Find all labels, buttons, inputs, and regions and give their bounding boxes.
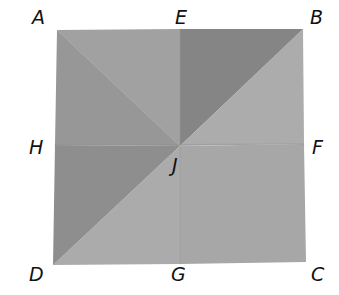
label-a: A (30, 6, 45, 28)
folded-square-diagram: A E B H F J D G C (0, 0, 339, 295)
label-f: F (312, 136, 324, 158)
label-d: D (29, 263, 44, 285)
label-g: G (171, 263, 186, 285)
label-h: H (29, 136, 43, 158)
label-e: E (175, 6, 187, 28)
label-b: B (310, 6, 323, 28)
label-c: C (311, 263, 325, 285)
region-j-f-c-g (180, 144, 306, 264)
